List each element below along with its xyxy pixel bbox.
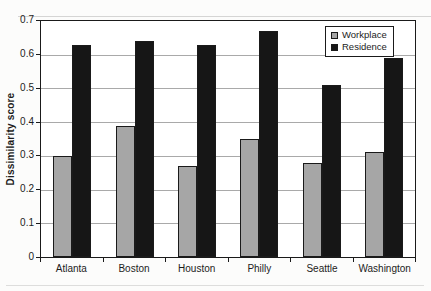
legend-label-workplace: Workplace xyxy=(342,29,387,41)
x-category-label: Houston xyxy=(165,262,228,276)
x-category-label: Philly xyxy=(228,262,291,276)
gridline xyxy=(41,156,415,157)
y-tick-label: 0.2 xyxy=(0,183,34,195)
y-tick-label: 0.4 xyxy=(0,116,34,128)
gridline xyxy=(41,122,415,123)
bar-residence-philly xyxy=(259,31,278,257)
bar-residence-atlanta xyxy=(72,45,91,257)
legend-swatch-residence xyxy=(331,44,338,51)
bar-workplace-boston xyxy=(116,126,135,257)
y-axis-tick xyxy=(36,223,40,224)
y-axis-tick xyxy=(36,54,40,55)
bar-workplace-philly xyxy=(240,139,259,257)
bar-residence-seattle xyxy=(322,85,341,257)
y-axis-tick xyxy=(36,20,40,21)
bar-workplace-houston xyxy=(178,166,197,257)
gridline xyxy=(41,88,415,89)
legend-swatch-workplace xyxy=(331,32,338,39)
y-axis-tick xyxy=(36,189,40,190)
y-axis-tick xyxy=(36,122,40,123)
bar-workplace-washington xyxy=(365,152,384,257)
legend: Workplace Residence xyxy=(325,26,394,57)
y-tick-label: 0 xyxy=(0,251,34,263)
legend-item-residence: Residence xyxy=(331,41,387,53)
y-axis-tick xyxy=(36,155,40,156)
bar-workplace-seattle xyxy=(303,163,322,257)
x-category-label: Atlanta xyxy=(40,262,103,276)
x-category-label: Seattle xyxy=(291,262,354,276)
y-tick-label: 0.1 xyxy=(0,217,34,229)
bar-residence-boston xyxy=(135,41,154,257)
y-tick-label: 0.6 xyxy=(0,48,34,60)
legend-label-residence: Residence xyxy=(342,41,387,53)
scan-artifact-line-top xyxy=(18,16,431,17)
bar-residence-washington xyxy=(384,58,403,257)
bar-residence-houston xyxy=(197,45,216,257)
y-axis-tick xyxy=(36,88,40,89)
bar-workplace-atlanta xyxy=(53,156,72,257)
scan-artifact-line-bottom xyxy=(6,285,424,286)
figure: Dissimilarity score Workplace Residence … xyxy=(0,0,431,291)
legend-item-workplace: Workplace xyxy=(331,29,387,41)
y-tick-label: 0.5 xyxy=(0,82,34,94)
x-category-label: Boston xyxy=(103,262,166,276)
y-tick-label: 0.7 xyxy=(0,14,34,26)
gridline xyxy=(41,223,415,224)
y-tick-label: 0.3 xyxy=(0,149,34,161)
x-category-label: Washington xyxy=(353,262,416,276)
gridline xyxy=(41,190,415,191)
